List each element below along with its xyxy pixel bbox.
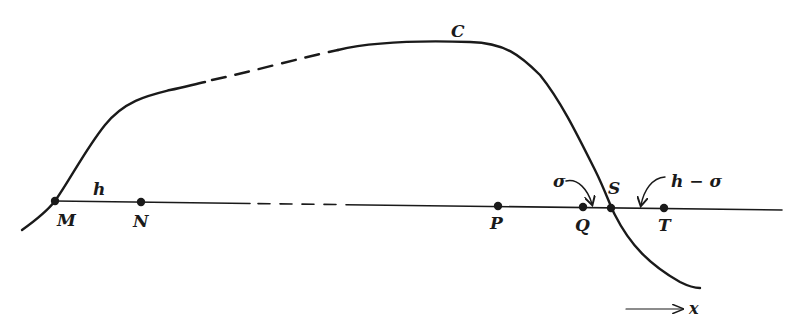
sigma-arrow-icon [566, 181, 592, 204]
label-q: Q [575, 215, 590, 235]
curve-c-left [22, 82, 205, 230]
label-c: C [451, 21, 465, 41]
baseline-dashed [258, 204, 340, 205]
diagram-canvas: M N P Q S T h C σ h − σ x [0, 0, 797, 332]
point-m [51, 197, 59, 205]
label-p: P [489, 213, 504, 233]
label-m: M [56, 210, 77, 230]
label-h: h [93, 179, 105, 199]
label-x: x [688, 299, 699, 318]
point-t [660, 204, 668, 212]
baseline-right [346, 205, 782, 210]
point-n [137, 198, 145, 206]
point-s [607, 204, 615, 212]
point-p [494, 202, 502, 210]
label-s: S [608, 178, 620, 198]
label-sigma: σ [553, 171, 566, 191]
curve-c-right [338, 41, 700, 288]
baseline-left [55, 201, 250, 204]
curve-c-dashed [212, 50, 338, 80]
h-minus-sigma-arrow-icon [641, 177, 665, 205]
label-h-minus-sigma: h − σ [671, 171, 722, 191]
label-n: N [132, 211, 150, 231]
point-q [579, 203, 587, 211]
label-t: T [658, 215, 672, 235]
